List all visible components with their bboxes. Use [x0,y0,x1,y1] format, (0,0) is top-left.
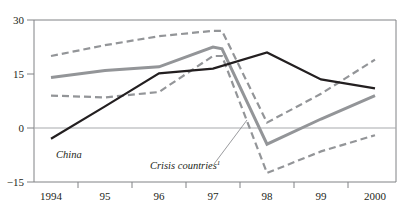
crisis-countries-annotation-superscript: 1 [217,159,221,167]
x-tick-label-97: 97 [208,190,220,202]
x-tick-label-2000: 2000 [364,190,387,202]
x-tick-label-95: 95 [100,190,112,202]
x-tick-label-1994: 1994 [40,190,63,202]
y-tick-label-30: 30 [13,14,25,26]
x-tick-label-99: 99 [316,190,328,202]
crisis-countries-annotation-label: Crisis countries1 [150,159,220,171]
x-tick-label-96: 96 [154,190,166,202]
x-tick-label-98: 98 [262,190,274,202]
crisis-countries-annotation-text: Crisis countries [150,160,217,171]
y-tick-label-0: 0 [19,122,25,134]
y-tick-label-minus15: −15 [7,176,25,188]
china-annotation-label: China [56,149,82,160]
line-chart: 30 15 0 −15 1994 95 96 97 98 99 2000 [0,0,406,208]
y-tick-label-15: 15 [13,68,25,80]
chart-container: 30 15 0 −15 1994 95 96 97 98 99 2000 [0,0,406,208]
